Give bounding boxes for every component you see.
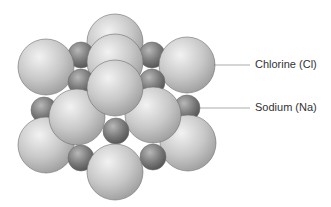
chlorine-atom <box>87 144 143 200</box>
chlorine-atom <box>159 37 215 93</box>
chlorine-atom <box>18 39 74 95</box>
sodium-atom <box>103 118 129 144</box>
chlorine-atom <box>87 60 143 116</box>
sodium-label: Sodium (Na) <box>255 101 317 113</box>
chlorine-label: Chlorine (Cl) <box>255 58 317 70</box>
atoms-group <box>18 14 216 200</box>
sodium-atom <box>140 144 166 170</box>
